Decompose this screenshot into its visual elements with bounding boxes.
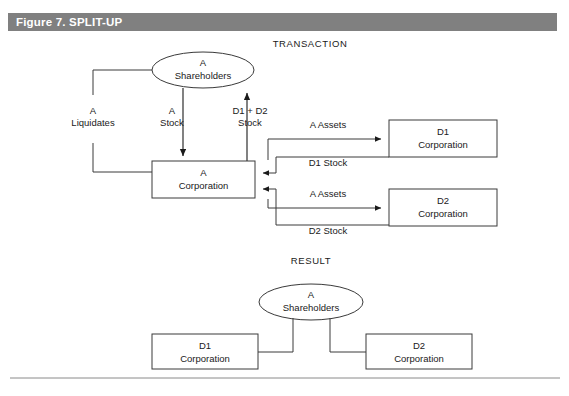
result-section-label: RESULT <box>261 255 361 266</box>
edge-label-a-liquidates: A Liquidates <box>53 105 133 129</box>
edge-label-a-stock: A Stock <box>143 105 201 129</box>
edge-label-d1-d2-stock: D1 + D2 Stock <box>219 105 281 129</box>
edge-result-shareholders-d2 <box>330 318 366 352</box>
edge-result-shareholders-d1 <box>258 318 293 352</box>
a-corporation-label: A Corporation <box>152 167 255 192</box>
transaction-d1-corporation-label: D1 Corporation <box>389 126 497 151</box>
result-d2-corporation-label: D2 Corporation <box>366 340 472 365</box>
transaction-shareholders-label: A Shareholders <box>153 57 253 82</box>
transaction-d2-corporation-label: D2 Corporation <box>389 195 497 220</box>
transaction-section-label: TRANSACTION <box>260 38 360 49</box>
edge-label-d1-stock: D1 Stock <box>288 157 368 169</box>
edge-a-assets-d2 <box>268 199 381 208</box>
edge-label-a-assets-d1: A Assets <box>288 119 368 131</box>
result-shareholders-label: A Shareholders <box>261 289 361 314</box>
edge-label-a-assets-d2: A Assets <box>288 188 368 200</box>
edge-label-d2-stock: D2 Stock <box>288 225 368 237</box>
figure-page: Figure 7. SPLIT-UP <box>0 0 569 396</box>
result-d1-corporation-label: D1 Corporation <box>152 340 258 365</box>
